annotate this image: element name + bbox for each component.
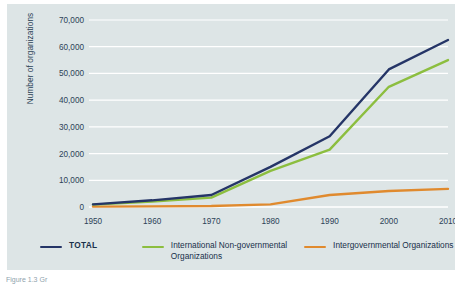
y-tick-label: 30,000 [59, 123, 84, 132]
line-chart: 010,00020,00030,00040,00050,00060,00070,… [7, 4, 455, 236]
y-tick-label: 20,000 [59, 150, 84, 159]
legend-label-total: TOTAL [69, 240, 97, 251]
y-tick-label: 40,000 [59, 96, 84, 105]
y-tick-label: 50,000 [59, 69, 84, 78]
y-tick-label: 60,000 [59, 43, 84, 52]
y-axis-title: Number of organizations [26, 0, 35, 129]
figure-caption-text: Figure 1.3 Gr [6, 276, 126, 284]
x-tick-label: 2010 [439, 217, 455, 226]
legend-item-igo[interactable]: Intergovernmental Organizations [304, 240, 455, 251]
y-tick-label: 70,000 [59, 16, 84, 25]
x-tick-label: 1980 [261, 217, 280, 226]
legend-item-total[interactable]: TOTAL [40, 240, 142, 251]
legend-swatch-total [40, 246, 62, 249]
series-line [93, 189, 448, 207]
chart-legend: TOTAL International Non-governmental Org… [7, 240, 455, 274]
y-tick-label: 0 [79, 203, 84, 212]
x-tick-label: 1950 [84, 217, 103, 226]
legend-swatch-ingo [142, 246, 164, 249]
series-line [93, 60, 448, 205]
figure-caption-partial: Figure 1.3 Gr [6, 276, 126, 284]
x-tick-label: 1960 [143, 217, 162, 226]
x-tick-label: 1970 [202, 217, 221, 226]
legend-label-ingo: International Non-governmental Organizat… [171, 240, 299, 261]
plot-area: Number of organizations 010,00020,00030,… [7, 4, 455, 236]
chart-panel: Number of organizations 010,00020,00030,… [7, 4, 455, 270]
series-line [93, 40, 448, 204]
legend-item-ingo[interactable]: International Non-governmental Organizat… [142, 240, 304, 261]
figure-container: Number of organizations 010,00020,00030,… [0, 0, 468, 284]
legend-label-igo: Intergovernmental Organizations [333, 240, 453, 251]
x-tick-label: 1990 [321, 217, 340, 226]
x-tick-label: 2000 [380, 217, 399, 226]
legend-swatch-igo [304, 246, 326, 249]
y-tick-label: 10,000 [59, 176, 84, 185]
